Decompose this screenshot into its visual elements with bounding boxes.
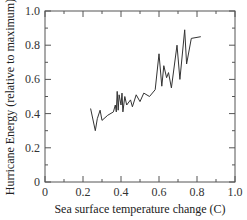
x-tick-label: 0 bbox=[42, 185, 48, 199]
axis-ticks bbox=[45, 11, 235, 182]
x-tick-label: 0.4 bbox=[114, 185, 129, 199]
x-tick-label: 1.0 bbox=[228, 185, 243, 199]
x-axis-label: Sea surface temperature change (C) bbox=[54, 202, 225, 216]
y-tick-label: 0.4 bbox=[25, 107, 40, 121]
x-tick-label: 0.8 bbox=[190, 185, 205, 199]
y-tick-label: 0.8 bbox=[25, 38, 40, 52]
y-tick-label: 0 bbox=[34, 175, 40, 189]
plot-frame bbox=[45, 11, 235, 182]
x-tick-label: 0.6 bbox=[152, 185, 167, 199]
plot-border bbox=[45, 11, 235, 182]
y-tick-label: 0.2 bbox=[25, 141, 40, 155]
y-tick-label: 0.6 bbox=[25, 72, 40, 86]
data-line bbox=[91, 30, 201, 131]
x-tick-label: 0.2 bbox=[76, 185, 91, 199]
line-chart: 00.20.40.60.81.000.20.40.60.81.0 Sea sur… bbox=[0, 0, 247, 220]
y-axis-label: Hurricane Energy (relative to maximum) bbox=[3, 0, 17, 195]
y-tick-label: 1.0 bbox=[25, 4, 40, 18]
